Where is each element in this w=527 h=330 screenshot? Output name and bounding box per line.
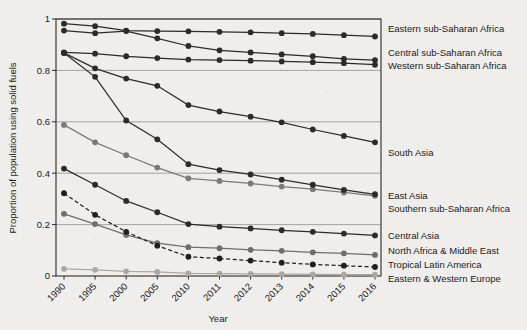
- data-point: [186, 221, 192, 227]
- data-point: [217, 256, 223, 262]
- data-point: [123, 152, 129, 158]
- y-tick-label: 0.6: [37, 116, 50, 127]
- legend-label-7: North Africa & Middle East: [388, 245, 499, 256]
- data-point: [217, 224, 223, 230]
- data-point: [310, 127, 316, 133]
- data-point: [279, 227, 285, 233]
- data-point: [372, 34, 378, 40]
- legend-label-9: Eastern & Western Europe: [388, 273, 501, 284]
- data-point: [217, 57, 223, 63]
- legend-label-3: South Asia: [388, 147, 434, 158]
- data-point: [92, 182, 98, 188]
- data-point: [61, 122, 67, 128]
- data-point: [92, 65, 98, 71]
- data-point: [341, 187, 347, 193]
- y-tick-label: 1: [45, 13, 50, 24]
- data-point: [310, 59, 316, 65]
- data-point: [217, 167, 223, 173]
- data-point: [341, 32, 347, 38]
- data-point: [61, 50, 67, 56]
- data-point: [248, 247, 254, 253]
- data-point: [217, 245, 223, 251]
- data-point: [279, 271, 285, 277]
- data-point: [154, 136, 160, 142]
- data-point: [186, 43, 192, 49]
- data-point: [310, 249, 316, 255]
- data-point: [372, 139, 378, 145]
- data-point: [154, 55, 160, 61]
- data-point: [279, 177, 285, 183]
- data-point: [310, 53, 316, 59]
- data-point: [310, 272, 316, 278]
- data-point: [92, 212, 98, 218]
- data-point: [123, 229, 129, 235]
- data-point: [310, 31, 316, 37]
- data-point: [123, 118, 129, 124]
- data-point: [248, 114, 254, 120]
- y-tick-label: 0.4: [37, 168, 50, 179]
- data-point: [279, 59, 285, 65]
- data-point: [372, 272, 378, 278]
- data-point: [123, 268, 129, 274]
- data-point: [92, 51, 98, 57]
- data-point: [279, 30, 285, 36]
- data-point: [310, 262, 316, 268]
- data-point: [341, 250, 347, 256]
- data-point: [217, 178, 223, 184]
- data-point: [92, 267, 98, 273]
- data-point: [123, 28, 129, 34]
- data-point: [92, 23, 98, 29]
- data-point: [92, 74, 98, 80]
- legend-label-2: Western sub-Saharan Africa: [388, 60, 507, 71]
- legend-label-1: Central sub-Saharan Africa: [388, 47, 503, 58]
- data-point: [279, 184, 285, 190]
- y-axis-title: Proportion of population using solid fue…: [7, 62, 18, 233]
- data-point: [248, 29, 254, 35]
- data-point: [154, 83, 160, 89]
- data-point: [61, 266, 67, 272]
- data-point: [341, 231, 347, 237]
- data-point: [92, 30, 98, 36]
- data-point: [217, 271, 223, 277]
- data-point: [154, 165, 160, 171]
- y-tick-label: 0.2: [37, 219, 50, 230]
- data-point: [248, 226, 254, 232]
- data-point: [186, 254, 192, 260]
- data-point: [123, 198, 129, 204]
- data-point: [372, 264, 378, 270]
- data-point: [154, 28, 160, 34]
- data-point: [372, 62, 378, 68]
- legend-label-4: East Asia: [388, 190, 428, 201]
- data-point: [217, 47, 223, 53]
- data-point: [372, 252, 378, 258]
- data-point: [154, 209, 160, 215]
- legend-label-6: Central Asia: [388, 230, 440, 241]
- data-point: [154, 269, 160, 275]
- data-point: [61, 211, 67, 217]
- data-point: [186, 57, 192, 63]
- data-point: [154, 35, 160, 41]
- data-point: [279, 260, 285, 266]
- data-point: [123, 53, 129, 59]
- data-point: [279, 248, 285, 254]
- data-point: [248, 172, 254, 178]
- data-point: [186, 271, 192, 277]
- data-point: [248, 271, 254, 277]
- data-point: [186, 102, 192, 108]
- legend-label-8: Tropical Latin America: [388, 259, 482, 270]
- data-point: [123, 76, 129, 82]
- data-point: [279, 52, 285, 58]
- data-point: [341, 272, 347, 278]
- data-point: [217, 29, 223, 35]
- data-point: [279, 119, 285, 125]
- data-point: [248, 50, 254, 56]
- y-tick-label: 0.8: [37, 65, 50, 76]
- data-point: [186, 28, 192, 34]
- data-point: [310, 229, 316, 235]
- chart-figure: 00.20.40.60.81 1990199520002005201020112…: [0, 0, 527, 330]
- data-point: [154, 243, 160, 249]
- solid-fuels-line-chart: 00.20.40.60.81 1990199520002005201020112…: [0, 0, 527, 330]
- x-axis-title: Year: [208, 313, 227, 324]
- data-point: [372, 232, 378, 238]
- data-point: [61, 21, 67, 27]
